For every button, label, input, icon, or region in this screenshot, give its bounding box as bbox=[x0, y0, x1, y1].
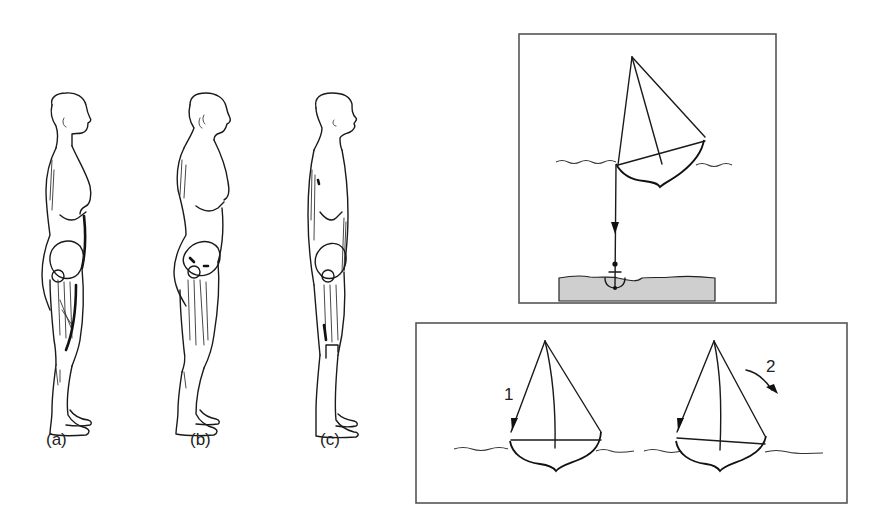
two-boats-panel: 1 2 bbox=[0, 0, 876, 525]
arrow-label-2: 2 bbox=[766, 357, 775, 376]
arrow-1-icon bbox=[511, 418, 518, 431]
diagram-canvas: (a) (b) (c) bbox=[0, 0, 876, 525]
arrow-2a-icon bbox=[677, 418, 684, 431]
arrow-label-1: 1 bbox=[504, 385, 513, 404]
two-boats-svg: 1 2 bbox=[0, 0, 876, 525]
boat-1 bbox=[510, 341, 601, 471]
rotation-arrow-2-icon bbox=[766, 384, 778, 394]
two-boats-frame bbox=[416, 323, 847, 503]
boat-2 bbox=[676, 341, 766, 471]
